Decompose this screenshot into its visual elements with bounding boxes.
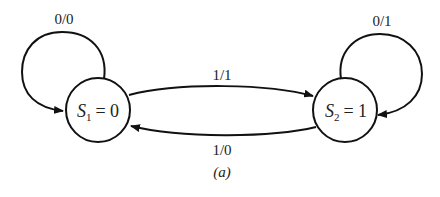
state-diagram: 0/0 S1= 0 1/1 1/0 (a) S2= 1 0/1	[0, 0, 440, 197]
transition-label-s1-s2: 1/1	[212, 67, 231, 83]
transition-label-s2-s2: 0/1	[372, 13, 391, 29]
transition-s2-s1	[131, 126, 316, 135]
state-s1-label: S1= 0	[77, 101, 119, 123]
figure-caption: (a)	[213, 164, 231, 181]
transition-label-s2-s1: 1/0	[212, 142, 231, 158]
transition-label-s1-s1: 0/0	[54, 11, 73, 27]
state-s2-label: S2= 1	[325, 101, 367, 123]
transition-s1-s2	[129, 86, 313, 96]
